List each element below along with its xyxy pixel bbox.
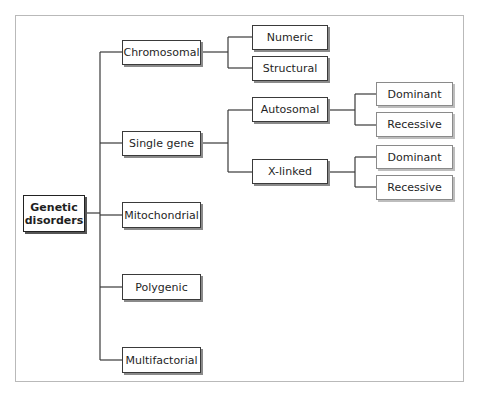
node-label: Recessive (387, 181, 442, 194)
node-x-linked-recessive: Recessive (376, 175, 453, 200)
node-autosomal: Autosomal (252, 97, 328, 122)
node-label: Recessive (387, 118, 442, 131)
node-label: Dominant (388, 151, 442, 164)
node-label: Multifactorial (126, 354, 198, 367)
node-single-gene: Single gene (122, 131, 201, 156)
node-polygenic: Polygenic (122, 274, 201, 300)
node-numeric: Numeric (252, 25, 328, 50)
node-x-linked: X-linked (252, 159, 328, 184)
node-structural: Structural (252, 56, 328, 81)
node-chromosomal: Chromosomal (122, 40, 201, 65)
node-label: Single gene (129, 137, 194, 150)
node-label: Structural (263, 62, 317, 75)
node-label: Chromosomal (123, 46, 199, 59)
node-label: Genetic (30, 201, 77, 214)
node-multifactorial: Multifactorial (122, 347, 201, 373)
node-label: X-linked (268, 165, 312, 178)
node-x-linked-dominant: Dominant (376, 145, 453, 169)
node-label: Polygenic (135, 281, 187, 294)
node-label: Numeric (267, 31, 313, 44)
node-label: Autosomal (261, 103, 320, 116)
node-label: Mitochondrial (124, 209, 199, 222)
node-autosomal-recessive: Recessive (376, 112, 453, 137)
node-genetic-disorders: Genetic disorders (23, 195, 85, 232)
node-autosomal-dominant: Dominant (376, 82, 453, 106)
node-mitochondrial: Mitochondrial (122, 202, 201, 228)
node-label: disorders (25, 214, 83, 227)
node-label: Dominant (388, 88, 442, 101)
